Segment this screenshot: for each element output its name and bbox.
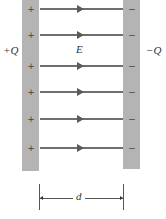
plus-sign-icon: + <box>26 62 36 71</box>
field-line <box>40 34 123 36</box>
plus-sign-icon: + <box>26 5 36 14</box>
field-line <box>40 91 123 93</box>
plus-sign-icon: + <box>26 144 36 153</box>
plus-sign-icon: + <box>26 88 36 97</box>
field-line <box>40 8 123 10</box>
minus-sign-icon: − <box>127 144 137 153</box>
field-line <box>40 147 123 149</box>
arrow-right-icon <box>77 31 84 39</box>
dimension-arrow-left-icon <box>40 196 43 200</box>
dimension-arrow-right-icon <box>120 196 123 200</box>
plus-sign-icon: + <box>26 31 36 40</box>
separation-label: d <box>73 190 85 202</box>
arrow-right-icon <box>77 62 84 70</box>
arrow-right-icon <box>77 115 84 123</box>
plus-sign-icon: + <box>26 115 36 124</box>
arrow-right-icon <box>77 144 84 152</box>
field-line <box>40 65 123 67</box>
dimension-tick-right <box>123 184 124 210</box>
field-label: E <box>76 43 83 55</box>
minus-sign-icon: − <box>127 88 137 97</box>
capacitor-diagram: +−+−+−+−+−+− +Q −Q E d <box>0 0 166 219</box>
field-line <box>40 118 123 120</box>
minus-sign-icon: − <box>127 5 137 14</box>
positive-charge-label: +Q <box>3 44 18 56</box>
arrow-right-icon <box>77 88 84 96</box>
arrow-right-icon <box>77 5 84 13</box>
minus-sign-icon: − <box>127 62 137 71</box>
minus-sign-icon: − <box>127 115 137 124</box>
negative-charge-label: −Q <box>146 44 161 56</box>
minus-sign-icon: − <box>127 31 137 40</box>
